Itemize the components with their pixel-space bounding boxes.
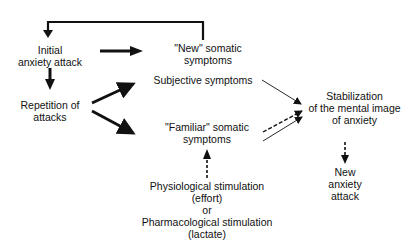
node-stimulation: Physiological stimulation (effort) or Ph… (137, 180, 277, 240)
node-familiar-somatic-symptoms: "Familiar" somatic symptoms (157, 121, 257, 145)
arrow-stimulation-to-familiar (203, 149, 211, 178)
node-stimulation-line4: Pharmacological stimulation (137, 216, 277, 228)
node-stabilization: Stabilization of the mental image of anx… (302, 90, 407, 126)
node-new-somatic-line1: "New" somatic (163, 42, 253, 54)
node-initial-line2: anxiety attack (10, 56, 90, 68)
node-repetition-of-attacks: Repetition of attacks (10, 99, 90, 123)
arrow-repetition-to-familiar (92, 111, 133, 133)
node-stabilization-line1: Stabilization (302, 90, 407, 102)
node-stimulation-line2: (effort) (137, 192, 277, 204)
node-familiar-line1: "Familiar" somatic (157, 121, 257, 133)
feedback-arrow (43, 22, 203, 40)
node-new-somatic-symptoms: "New" somatic symptoms (163, 42, 253, 66)
node-subjective-symptoms: Subjective symptoms (148, 74, 258, 86)
node-stimulation-line5: (lactate) (137, 228, 277, 240)
node-repetition-line1: Repetition of (10, 99, 90, 111)
node-new-attack-line1: New (315, 166, 375, 178)
node-repetition-line2: attacks (10, 111, 90, 123)
node-initial-anxiety-attack: Initial anxiety attack (10, 44, 90, 68)
node-stabilization-line3: of anxiety (302, 114, 407, 126)
node-new-attack-line2: anxiety (315, 178, 375, 190)
node-initial-line1: Initial (10, 44, 90, 56)
arrow-repetition-to-subjective (92, 84, 133, 103)
arrow-stabilization-to-new-attack (341, 142, 349, 164)
arrow-subjective-to-stabilization (262, 80, 301, 104)
node-stimulation-line1: Physiological stimulation (137, 180, 277, 192)
node-stabilization-line2: of the mental image (302, 102, 407, 114)
arrow-initial-to-repetition (45, 68, 55, 90)
node-stimulation-line3: or (137, 204, 277, 216)
node-new-attack-line3: attack (315, 190, 375, 202)
node-new-anxiety-attack: New anxiety attack (315, 166, 375, 202)
node-subjective-line1: Subjective symptoms (148, 74, 258, 86)
node-new-somatic-line2: symptoms (163, 54, 253, 66)
node-familiar-line2: symptoms (157, 133, 257, 145)
arrow-initial-to-new-somatic (100, 46, 143, 56)
